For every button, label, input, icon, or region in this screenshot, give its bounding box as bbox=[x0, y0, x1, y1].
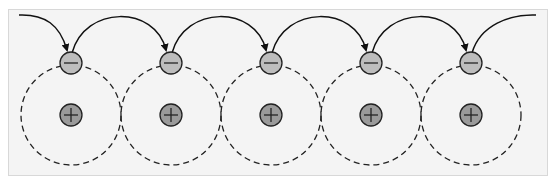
nucleus-icon bbox=[60, 104, 82, 126]
hop-arrow bbox=[472, 15, 536, 53]
hop-arrow bbox=[72, 17, 166, 53]
hop-arrow bbox=[19, 15, 67, 50]
electron-icon bbox=[60, 52, 82, 74]
hop-arrow bbox=[172, 17, 266, 53]
hop-arrow bbox=[372, 17, 466, 53]
electron-icon bbox=[360, 52, 382, 74]
electron-icon bbox=[160, 52, 182, 74]
nucleus-icon bbox=[160, 104, 182, 126]
nucleus-icon bbox=[260, 104, 282, 126]
electron-hopping-diagram bbox=[0, 0, 555, 183]
nucleus-icon bbox=[360, 104, 382, 126]
hop-arrow bbox=[272, 17, 366, 53]
nucleus-icon bbox=[460, 104, 482, 126]
electron-icon bbox=[260, 52, 282, 74]
electron-icon bbox=[460, 52, 482, 74]
